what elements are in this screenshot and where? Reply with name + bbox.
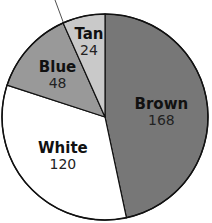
slice-value-tan: 24	[80, 42, 98, 58]
slice-value-white: 120	[50, 156, 77, 172]
slice-label-blue: Blue	[39, 58, 76, 76]
slice-label-brown: Brown	[135, 95, 189, 113]
pie-slices	[2, 14, 208, 220]
slice-value-blue: 48	[49, 75, 67, 91]
slice-value-brown: 168	[148, 112, 175, 128]
slice-label-white: White	[38, 139, 88, 157]
pie-chart: Brown168White120Blue48Tan24	[0, 0, 212, 223]
slice-label-tan: Tan	[74, 25, 103, 43]
